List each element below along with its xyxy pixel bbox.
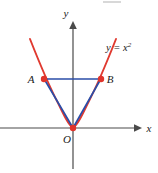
parabola-figure: y x A B O y = x2 <box>0 0 158 173</box>
curve-equation-label: y = x2 <box>105 41 132 53</box>
x-axis-label: x <box>146 122 152 134</box>
point-label-b: B <box>107 73 114 85</box>
point-label-a: A <box>27 73 35 85</box>
figure-canvas: y x A B O y = x2 <box>0 0 158 173</box>
x-axis-arrow <box>134 124 142 132</box>
point-label-o: O <box>63 133 71 145</box>
point-marker-o <box>70 125 76 131</box>
point-marker-a <box>41 76 47 82</box>
chord-segment-oa <box>45 80 74 129</box>
equation-text: y = x <box>105 42 128 53</box>
chord-segment-ob <box>73 80 101 129</box>
y-axis-arrow <box>69 21 77 29</box>
equation-exponent: 2 <box>128 41 132 49</box>
point-marker-b <box>98 76 104 82</box>
y-axis-label: y <box>63 7 69 19</box>
